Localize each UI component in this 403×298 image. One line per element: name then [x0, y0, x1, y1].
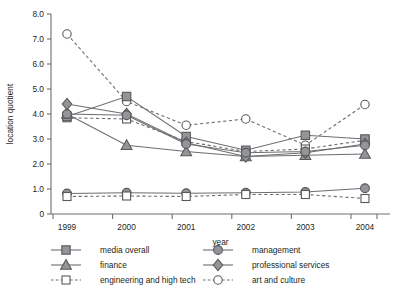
data-point-marker	[242, 115, 250, 123]
data-point-marker	[361, 184, 370, 193]
data-point-marker	[361, 195, 369, 203]
data-point-marker	[62, 246, 70, 254]
y-tick-label: 6.0	[32, 59, 44, 69]
data-point-marker	[182, 193, 190, 201]
axes	[47, 14, 390, 219]
data-point-marker	[63, 193, 71, 201]
series-markers	[62, 30, 371, 203]
legend-label: media overall	[100, 245, 150, 255]
series-line	[67, 188, 365, 193]
legend-item[interactable]: media overall	[51, 245, 150, 255]
data-point-marker	[361, 141, 370, 150]
y-tick-label: 8.0	[32, 9, 44, 19]
chart-container: 01.02.03.04.05.06.07.08.0199920002001200…	[0, 0, 403, 298]
data-point-marker	[242, 191, 250, 199]
data-point-marker	[214, 246, 223, 255]
y-tick-label: 4.0	[32, 109, 44, 119]
series-layer	[62, 30, 371, 203]
data-point-marker	[361, 100, 369, 108]
y-tick-label: 5.0	[32, 84, 44, 94]
legend-label: finance	[100, 260, 127, 270]
x-tick-label: 2004	[356, 222, 375, 232]
series-line	[67, 34, 365, 145]
data-point-marker	[301, 191, 309, 199]
legend-label: engineering and high tech	[100, 275, 196, 285]
legend-label: art and culture	[252, 275, 305, 285]
x-tick-label: 2001	[177, 222, 196, 232]
data-point-marker	[62, 276, 70, 284]
data-point-marker	[241, 148, 250, 157]
line-chart: 01.02.03.04.05.06.07.08.0199920002001200…	[0, 0, 403, 298]
y-tick-label: 7.0	[32, 34, 44, 44]
data-point-marker	[63, 110, 72, 119]
data-point-marker	[63, 30, 71, 38]
legend-label: professional services	[252, 260, 329, 270]
legend-item[interactable]: management	[203, 245, 301, 255]
legend-item[interactable]: finance	[51, 260, 127, 271]
series-line	[67, 97, 365, 151]
legend-label: management	[252, 245, 301, 255]
series-lines	[67, 34, 365, 199]
y-tick-label: 0	[39, 209, 44, 219]
x-tick-label: 2000	[117, 222, 136, 232]
legend-item[interactable]: engineering and high tech	[51, 275, 196, 285]
y-tick-label: 3.0	[32, 134, 44, 144]
legend-item[interactable]: art and culture	[203, 275, 305, 285]
series-line	[67, 195, 365, 199]
x-tick-label: 1999	[58, 222, 77, 232]
data-point-marker	[122, 111, 131, 120]
y-tick-label: 2.0	[32, 159, 44, 169]
x-axis-title: year	[212, 237, 228, 247]
data-point-marker	[121, 140, 132, 150]
data-point-marker	[214, 276, 222, 284]
data-point-marker	[213, 259, 223, 270]
data-point-marker	[301, 147, 310, 156]
x-tick-label: 2003	[296, 222, 315, 232]
y-axis-title: location quotient	[5, 83, 15, 144]
x-tick-label: 2002	[237, 222, 256, 232]
data-point-marker	[122, 92, 130, 100]
y-tick-label: 1.0	[32, 184, 44, 194]
data-point-marker	[123, 192, 131, 200]
chart-legend: media overallmanagementfinanceprofession…	[51, 245, 329, 285]
data-point-marker	[182, 121, 190, 129]
data-point-marker	[62, 98, 72, 109]
data-point-marker	[301, 131, 309, 139]
data-point-marker	[182, 140, 191, 149]
legend-item[interactable]: professional services	[203, 259, 329, 270]
